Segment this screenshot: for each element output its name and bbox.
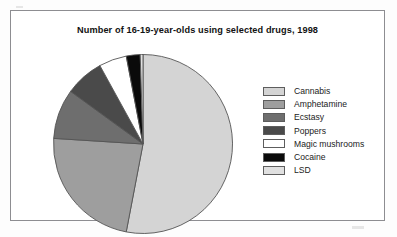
- legend-item[interactable]: Poppers: [263, 124, 393, 137]
- legend-item[interactable]: Cocaine: [263, 150, 393, 163]
- legend-swatch: [263, 166, 285, 175]
- chart-title: Number of 16-19-year-olds using selected…: [11, 25, 384, 35]
- pie-slice-group: [54, 54, 233, 233]
- legend-label: Cannabis: [294, 87, 330, 96]
- legend-item[interactable]: Ecstasy: [263, 111, 393, 124]
- legend-label: Magic mushrooms: [294, 140, 364, 149]
- scan-artifact: [16, 6, 23, 8]
- chart-frame: Number of 16-19-year-olds using selected…: [10, 10, 385, 221]
- legend-item[interactable]: Cannabis: [263, 85, 393, 98]
- legend-label: Ecstasy: [294, 113, 324, 122]
- legend-label: Amphetamine: [294, 100, 347, 109]
- legend-swatch: [263, 100, 285, 109]
- legend-label: Poppers: [294, 127, 326, 136]
- legend-label: LSD: [294, 166, 311, 175]
- legend-swatch: [263, 139, 285, 148]
- legend-label: Cocaine: [294, 153, 326, 162]
- chart-page: Number of 16-19-year-olds using selected…: [0, 0, 397, 237]
- legend-swatch: [263, 126, 285, 135]
- scan-artifact: [352, 226, 364, 229]
- legend-item[interactable]: Amphetamine: [263, 98, 393, 111]
- pie-chart: [52, 53, 234, 235]
- legend-swatch: [263, 87, 285, 96]
- legend-swatch: [263, 113, 285, 122]
- legend-item[interactable]: Magic mushrooms: [263, 137, 393, 150]
- pie-chart-svg: [52, 53, 234, 235]
- legend-item[interactable]: LSD: [263, 164, 393, 177]
- chart-legend: CannabisAmphetamineEcstasyPoppersMagic m…: [263, 85, 393, 177]
- legend-swatch: [263, 153, 285, 162]
